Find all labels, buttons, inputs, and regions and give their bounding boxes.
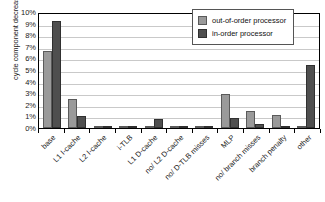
bar-group <box>115 14 140 128</box>
legend-item: out-of-order processor <box>198 14 286 27</box>
x-axis-category-labels: baseL1 I-cacheL2 I-cachei-TLBL1 D-cachen… <box>38 133 320 202</box>
bar <box>103 126 112 128</box>
x-category-label: MLP <box>89 133 237 202</box>
y-axis-tick-labels: 10%9%8%7%6%5%4%3%2%1%0% <box>14 13 36 129</box>
x-category-label: other <box>166 133 314 202</box>
x-category-label: branch penalty <box>140 133 288 202</box>
bar <box>128 126 137 128</box>
bar <box>119 126 128 128</box>
bar <box>221 94 230 128</box>
bar <box>170 126 179 128</box>
bar <box>52 21 61 128</box>
bar <box>246 111 255 128</box>
bar-group <box>64 14 89 128</box>
x-category-label: no/ D-TLB misses <box>63 133 211 202</box>
bar <box>94 126 103 128</box>
bar-group <box>90 14 115 128</box>
legend: out-of-order processorin-order processor <box>192 9 294 45</box>
bar <box>145 126 154 128</box>
legend-item: in-order processor <box>198 27 286 40</box>
bar <box>154 119 163 128</box>
bar-group <box>141 14 166 128</box>
x-category-label: no/ L2 D-cache <box>38 133 186 202</box>
bar <box>230 118 239 128</box>
y-tick-label: 9% <box>14 21 36 29</box>
y-tick-label: 1% <box>14 113 36 121</box>
y-tick-label: 0% <box>14 125 36 133</box>
y-tick-label: 6% <box>14 55 36 63</box>
bar <box>272 115 281 128</box>
x-category-label: L1 D-cache <box>12 133 160 202</box>
y-tick-label: 3% <box>14 90 36 98</box>
y-tick-label: 4% <box>14 79 36 87</box>
bar <box>77 116 86 128</box>
legend-swatch-icon <box>198 29 207 38</box>
y-tick-label: 2% <box>14 102 36 110</box>
x-tick-mark <box>320 129 321 133</box>
bar <box>43 51 52 128</box>
legend-label: in-order processor <box>212 29 273 38</box>
bar <box>306 65 315 128</box>
bar <box>204 126 213 128</box>
y-tick-label: 5% <box>14 67 36 75</box>
bar <box>195 126 204 128</box>
bar <box>281 126 290 128</box>
x-category-label: no/ branch misses <box>114 133 262 202</box>
bar <box>179 126 188 128</box>
bar-group <box>39 14 64 128</box>
bar-group <box>294 14 319 128</box>
bar-chart: cycle component decrease 10%9%8%7%6%5%4%… <box>0 0 325 202</box>
y-tick-label: 10% <box>14 9 36 17</box>
y-tick-label: 8% <box>14 32 36 40</box>
bar <box>297 126 306 128</box>
legend-swatch-icon <box>198 16 207 25</box>
legend-label: out-of-order processor <box>212 16 286 25</box>
bar-group <box>166 14 191 128</box>
bar <box>68 99 77 128</box>
y-tick-label: 7% <box>14 44 36 52</box>
bar <box>255 124 264 128</box>
